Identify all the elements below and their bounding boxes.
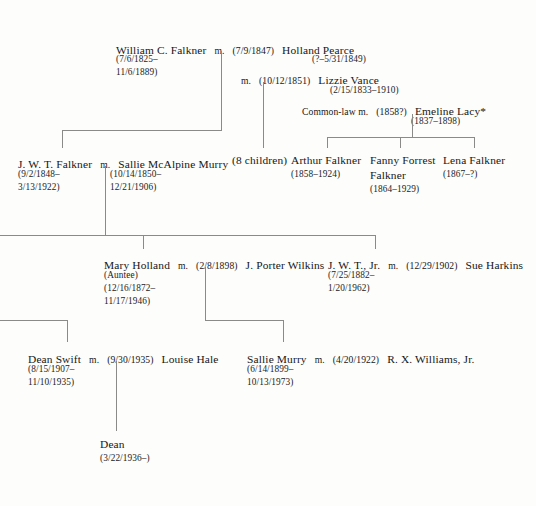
- connector-drop-to-mary-holland: [143, 235, 144, 249]
- dates-sallie-murry-line1: (6/14/1899–: [247, 364, 294, 376]
- person-fanny-forrest-falkner-line1: Fanny Forrest: [370, 153, 436, 168]
- dates-sallie-mcalpine-murry-line2: 12/21/1906): [110, 182, 157, 194]
- alias-mary-holland: (Auntee): [104, 270, 138, 282]
- connector-jwt-sallie-marriage-vertical: [105, 166, 106, 236]
- connector-drop-to-dean-swift: [67, 320, 68, 342]
- marriage-date: (7/9/1847): [233, 45, 275, 56]
- dates-holland-pearce: (?–5/31/1849): [312, 54, 366, 66]
- connector-drop-to-lena-falkner: [474, 137, 475, 148]
- marriage-label: m.: [388, 260, 398, 271]
- dates-emeline-lacy: (1837–1898): [411, 116, 460, 128]
- person-name-j-porter-wilkins: J. Porter Wilkins: [246, 259, 325, 271]
- person-name-louise-hale: Louise Hale: [162, 353, 219, 365]
- dates-mary-holland-line1: (12/16/1872–: [104, 283, 155, 295]
- dates-jwt-falkner-line2: 3/13/1922): [18, 182, 60, 194]
- dates-sallie-mcalpine-murry-line1: (10/14/1850–: [110, 169, 161, 181]
- connector-drop-to-jwt-falkner-jr: [375, 235, 376, 249]
- marriage-label: m.: [315, 354, 325, 365]
- marriage-label: m.: [241, 75, 251, 86]
- marriage-label: m.: [178, 260, 188, 271]
- marriage-emeline-lacy: Common-law m. (1858?) Emeline Lacy*: [302, 100, 490, 120]
- dates-mary-holland-line2: 11/17/1946): [104, 296, 150, 308]
- dates-william-c-falkner-line2: 11/6/1889): [116, 67, 157, 79]
- family-tree-chart: William C. Falkner m. (7/9/1847) Holland…: [0, 0, 536, 506]
- connector-drop-to-sallie-murry: [283, 320, 284, 342]
- person-lena-falkner: Lena Falkner: [443, 153, 505, 168]
- connector-gen3-children-bar-right: [205, 320, 284, 321]
- connector-drop-to-jwt-falkner: [62, 130, 63, 148]
- dates-jwt-falkner-jr-line1: (7/25/1882–: [328, 270, 375, 282]
- person-name-sue-harkins: Sue Harkins: [466, 259, 524, 271]
- marriage-date: (9/30/1935): [107, 354, 153, 365]
- connector-william-holland-vertical: [221, 51, 222, 131]
- dates-lizzie-vance: (2/15/1833–1910): [330, 85, 399, 97]
- person-fanny-forrest-falkner-line2: Falkner: [370, 168, 406, 183]
- dates-jwt-falkner-jr-line2: 1/20/1962): [328, 283, 370, 295]
- person-name-rx-williams-jr: R. X. Williams, Jr.: [387, 353, 474, 365]
- marriage-date: (1858?): [376, 106, 407, 117]
- connector-gen3-children-bar-left: [0, 320, 68, 321]
- dates-dean: (3/22/1936–): [100, 453, 150, 465]
- connector-mary-wilkins-marriage-vertical: [205, 267, 206, 321]
- marriage-date: (10/12/1851): [259, 75, 310, 86]
- marriage-label: m.: [89, 354, 99, 365]
- person-arthur-falkner: Arthur Falkner: [291, 153, 361, 168]
- dates-jwt-falkner-line1: (9/2/1848–: [18, 169, 60, 181]
- connector-lizzie-vance-to-eight-children: [263, 82, 264, 148]
- label-eight-children: (8 children): [232, 153, 287, 168]
- connector-drop-to-fanny-forrest-falkner: [400, 137, 401, 148]
- dates-dean-swift-line1: (8/15/1907–: [28, 364, 75, 376]
- marriage-date: (12/29/1902): [406, 260, 457, 271]
- dates-dean-swift-line2: 11/10/1935): [28, 377, 74, 389]
- connector-gen1-to-jwt-horizontal: [62, 130, 222, 131]
- marriage-date: (2/8/1898): [196, 260, 238, 271]
- dates-william-c-falkner-line1: (7/6/1825–: [116, 54, 158, 66]
- marriage-date: (4/20/1922): [333, 354, 379, 365]
- marriage-label: m.: [215, 45, 225, 56]
- dates-fanny-forrest-falkner: (1864–1929): [370, 184, 419, 196]
- dates-lena-falkner: (1867–?): [443, 169, 477, 181]
- connector-drop-to-arthur-falkner: [327, 137, 328, 148]
- connector-gen2-children-bar: [0, 235, 376, 236]
- dates-arthur-falkner: (1858–1924): [291, 169, 340, 181]
- connector-dean-swift-louise-to-dean: [116, 361, 117, 431]
- connector-emeline-lacy-drop: [412, 114, 413, 137]
- dates-sallie-murry-line2: 10/13/1973): [247, 377, 294, 389]
- marriage-label: Common-law m.: [302, 106, 368, 117]
- person-dean: Dean: [100, 437, 125, 452]
